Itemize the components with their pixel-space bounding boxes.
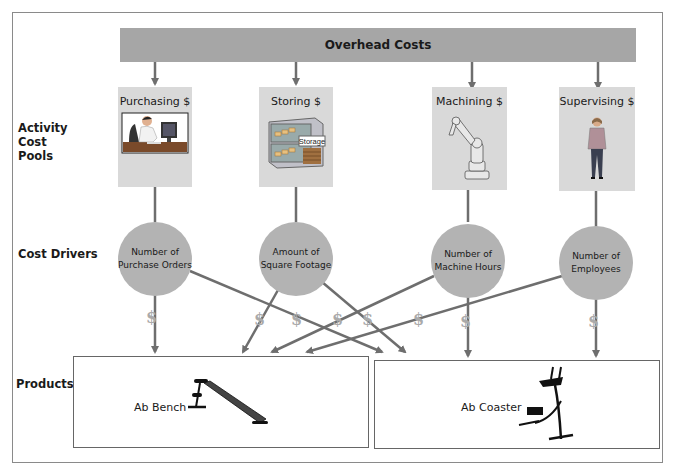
driver-text: Employees: [571, 263, 620, 276]
driver-square-footage: Amount of Square Footage: [259, 222, 333, 296]
row-label-cost-drivers: Cost Drivers: [18, 247, 98, 261]
robot-arm-icon: [445, 113, 495, 183]
storage-sign-text: Storage: [299, 137, 325, 146]
row-label-products: Products: [16, 377, 74, 391]
driver-text: Number of: [444, 248, 492, 261]
pool-purchasing: Purchasing $: [118, 87, 192, 187]
dollar-icon: $: [362, 310, 373, 329]
dollar-icon: $: [460, 312, 471, 331]
pool-storing-label: Storing $: [259, 95, 333, 108]
pool-purchasing-label: Purchasing $: [118, 95, 192, 108]
driver-employees: Number of Employees: [559, 226, 633, 300]
dollar-icon: $: [413, 310, 424, 329]
driver-text: Purchase Orders: [118, 259, 192, 272]
product-ab-coaster-label: Ab Coaster: [461, 401, 522, 414]
row-label-line: Pools: [18, 149, 68, 163]
office-worker-computer-icon: [121, 112, 189, 154]
product-ab-coaster: Ab Coaster: [374, 360, 660, 449]
ab-bench-icon: [186, 377, 270, 429]
product-ab-bench-label: Ab Bench: [134, 401, 186, 414]
dollar-icon: $: [588, 312, 599, 331]
pool-supervising-label: Supervising $: [559, 95, 635, 108]
product-ab-bench: Ab Bench: [73, 356, 369, 448]
pool-supervising: Supervising $: [559, 87, 635, 191]
driver-text: Number of: [572, 250, 620, 263]
driver-text: Square Footage: [261, 259, 332, 272]
driver-machine-hours: Number of Machine Hours: [431, 224, 505, 298]
driver-purchase-orders: Number of Purchase Orders: [118, 222, 192, 296]
driver-text: Machine Hours: [435, 261, 502, 274]
row-label-line: Cost: [18, 135, 68, 149]
dollar-icon: $: [146, 308, 157, 327]
storage-warehouse-icon: Storage: [265, 114, 327, 170]
row-label-activity-cost-pools: Activity Cost Pools: [18, 121, 68, 163]
driver-text: Amount of: [273, 246, 320, 259]
pool-machining: Machining $: [432, 87, 507, 190]
supervisor-person-icon: [582, 115, 612, 183]
ab-coaster-icon: [517, 365, 579, 445]
driver-text: Number of: [131, 246, 179, 259]
dollar-icon: $: [291, 310, 302, 329]
dollar-icon: $: [332, 310, 343, 329]
pool-storing: Storing $ Storage: [259, 87, 333, 187]
pool-machining-label: Machining $: [432, 95, 507, 108]
row-label-line: Activity: [18, 121, 68, 135]
dollar-icon: $: [254, 310, 265, 329]
